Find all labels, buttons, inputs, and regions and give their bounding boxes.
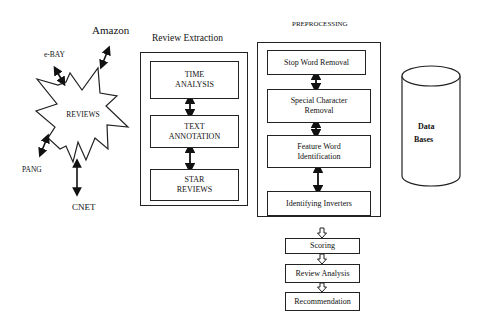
step-stop-word-removal: Stop Word Removal xyxy=(267,50,366,75)
step-time-analysis: TIMEANALYSIS xyxy=(150,61,239,99)
step-scoring: Scoring xyxy=(285,238,360,254)
source-pang: PANG xyxy=(22,165,42,175)
review-extraction-title: Review Extraction xyxy=(152,33,223,43)
step-special-character-removal: Special CharacterRemoval xyxy=(267,89,371,123)
source-ebay: e-BAY xyxy=(44,50,65,60)
step-text-annotation: TEXTANNOTATION xyxy=(150,115,239,148)
reviews-label: REVIEWS xyxy=(58,110,108,120)
step-star-reviews: STARREVIEWS xyxy=(150,169,239,201)
step-recommendation: Recommendation xyxy=(285,292,360,311)
preprocessing-title: PREPROCESSING xyxy=(292,20,348,28)
source-amazon: Amazon xyxy=(92,24,129,36)
step-feature-word-identification: Feature WordIdentification xyxy=(267,135,371,168)
database-label: Data Bases xyxy=(414,120,434,146)
step-identifying-inverters: Identifying Inverters xyxy=(267,191,371,216)
step-review-analysis: Review Analysis xyxy=(285,264,360,283)
source-cnet: CNET xyxy=(72,202,96,212)
